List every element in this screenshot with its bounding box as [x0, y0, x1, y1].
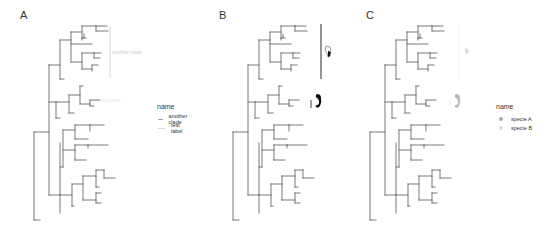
point-key-icon — [496, 116, 506, 122]
seahorse-silhouette-icon — [455, 94, 461, 108]
legend-label: specie B — [511, 125, 532, 131]
tip-label-test-label: test label — [100, 97, 120, 103]
panel-a: A another clade test label name another … — [0, 0, 184, 234]
bird-silhouette-icon — [325, 46, 331, 57]
legend-item-specie-b: specie B — [496, 123, 532, 132]
clade-label-another-clade: another clade — [112, 49, 142, 55]
legend-label: specie A — [511, 116, 532, 122]
point-key-icon — [496, 125, 506, 131]
legend-title: name — [496, 103, 532, 110]
seahorse-silhouette-icon — [316, 94, 322, 108]
line-key-icon — [157, 125, 166, 131]
panel-c: C name specie A specie B — [368, 0, 552, 234]
legend-c: name specie A specie B — [496, 103, 532, 132]
legend-item-specie-a: specie A — [496, 114, 532, 123]
line-key-icon — [157, 116, 164, 122]
bird-silhouette-icon — [465, 48, 469, 54]
